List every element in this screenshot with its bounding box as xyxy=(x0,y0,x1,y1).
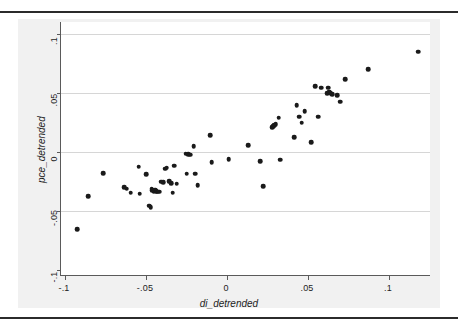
y-tick-label: 0 xyxy=(49,151,59,167)
scatter-point xyxy=(416,49,421,54)
scatter-point xyxy=(170,190,175,195)
scatter-point xyxy=(164,165,169,170)
scatter-point xyxy=(144,172,149,177)
scatter-point xyxy=(330,92,335,97)
scatter-point xyxy=(136,164,141,169)
scatter-point xyxy=(261,184,266,189)
scatter-point xyxy=(161,180,166,185)
x-tick-label: -.1 xyxy=(58,283,69,293)
gridline-y xyxy=(61,152,430,153)
plot-inner xyxy=(61,22,430,275)
scatter-point xyxy=(193,172,198,177)
scatter-point xyxy=(184,172,189,177)
scatter-point xyxy=(208,133,213,138)
y-axis-title: pce_detrended xyxy=(36,116,47,183)
scatter-point xyxy=(292,135,297,140)
scatter-point xyxy=(188,152,193,157)
scatter-point xyxy=(316,114,321,119)
scatter-point xyxy=(277,115,282,120)
x-tick-mark xyxy=(389,276,390,280)
scatter-point xyxy=(101,171,106,176)
x-axis-title: di_detrended xyxy=(0,298,458,309)
scatter-point xyxy=(157,189,162,194)
scatter-point xyxy=(191,144,196,149)
scatter-point xyxy=(246,143,251,148)
y-tick-label: -.05 xyxy=(49,210,59,226)
scatter-point xyxy=(226,157,231,162)
plot-area xyxy=(60,22,430,276)
gridline-y xyxy=(61,34,430,35)
scatter-point xyxy=(196,183,201,188)
scatter-point xyxy=(128,190,133,195)
scatter-point xyxy=(309,140,314,145)
scatter-point xyxy=(338,100,343,105)
gridline-y xyxy=(61,93,430,94)
scatter-point xyxy=(302,109,307,114)
scatter-point xyxy=(148,205,153,210)
scatter-point xyxy=(297,114,302,119)
scatter-point xyxy=(172,163,177,168)
scatter-point xyxy=(313,84,318,89)
scatter-point xyxy=(209,160,214,165)
x-tick-mark xyxy=(146,276,147,280)
x-tick-mark xyxy=(227,276,228,280)
scatter-point xyxy=(174,182,179,187)
scatter-point xyxy=(319,85,324,90)
x-tick-mark xyxy=(65,276,66,280)
scatter-point xyxy=(169,181,174,186)
scatter-point xyxy=(335,93,340,98)
gridline-y xyxy=(61,211,430,212)
scatter-point xyxy=(273,122,278,127)
x-tick-mark xyxy=(308,276,309,280)
y-tick-label: .05 xyxy=(49,92,59,108)
x-tick-label: -.05 xyxy=(137,283,153,293)
x-tick-label: 0 xyxy=(223,283,228,293)
scatter-point xyxy=(343,77,348,82)
x-tick-label: .05 xyxy=(300,283,313,293)
x-tick-label: .1 xyxy=(384,283,392,293)
scatter-point xyxy=(258,159,263,164)
scatter-point xyxy=(278,157,283,162)
scatter-point xyxy=(75,227,80,232)
scatter-point xyxy=(300,120,305,125)
scatter-point xyxy=(137,192,142,197)
y-tick-label: .1 xyxy=(49,33,59,49)
page-rule-bottom xyxy=(0,317,458,319)
scatter-point xyxy=(366,67,371,72)
scatter-point xyxy=(86,194,91,199)
scatter-point xyxy=(294,103,299,108)
page-rule-top xyxy=(0,11,458,13)
